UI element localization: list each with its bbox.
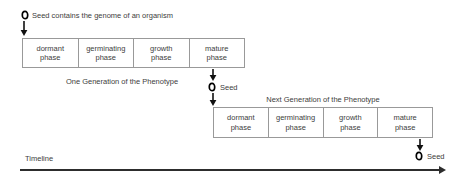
phase-label: germinating <box>276 113 315 123</box>
down-arrow-icon <box>209 69 217 81</box>
phase-box-mature: mature phase <box>377 108 432 137</box>
phase-box-growth: growth phase <box>323 108 378 137</box>
phase-label: phase <box>285 123 305 133</box>
phase-box-germinating: germinating phase <box>268 108 323 137</box>
phase-box-dormant: dormant phase <box>23 39 78 67</box>
generation1-phase-row: dormant phase germinating phase growth p… <box>22 38 245 68</box>
phase-label: phase <box>395 123 415 133</box>
phase-box-germinating: germinating phase <box>78 39 134 67</box>
seed-icon <box>21 10 29 20</box>
phase-box-growth: growth phase <box>133 39 189 67</box>
phase-label: germinating <box>86 44 125 54</box>
timeline-arrowhead-icon <box>439 166 446 174</box>
phase-label: mature <box>393 113 416 123</box>
phase-label: dormant <box>227 113 255 123</box>
seed-icon <box>415 151 423 161</box>
phase-label: phase <box>207 53 227 63</box>
diagram-canvas: Seed contains the genome of an organism … <box>0 0 462 180</box>
down-arrow-icon <box>20 21 28 36</box>
down-arrow-icon <box>416 139 424 151</box>
timeline-axis <box>20 169 439 171</box>
seed-label: Seed <box>427 152 445 161</box>
phase-label: dormant <box>36 44 64 54</box>
phase-label: growth <box>150 44 173 54</box>
generation2-phase-row: dormant phase germinating phase growth p… <box>213 107 433 138</box>
phase-label: phase <box>151 53 171 63</box>
phase-box-dormant: dormant phase <box>214 108 268 137</box>
timeline-label: Timeline <box>25 154 53 163</box>
seed-icon <box>208 82 216 92</box>
phase-label: phase <box>96 53 116 63</box>
seed-label: Seed <box>220 83 238 92</box>
phase-label: mature <box>205 44 228 54</box>
generation1-caption: One Generation of the Phenotype <box>22 77 222 86</box>
generation2-caption: Next Generation of the Phenotype <box>213 95 433 104</box>
phase-label: growth <box>339 113 362 123</box>
phase-label: phase <box>340 123 360 133</box>
phase-label: phase <box>231 123 251 133</box>
phase-box-mature: mature phase <box>189 39 245 67</box>
phase-label: phase <box>40 53 60 63</box>
seed-genome-label: Seed contains the genome of an organism <box>32 11 173 20</box>
